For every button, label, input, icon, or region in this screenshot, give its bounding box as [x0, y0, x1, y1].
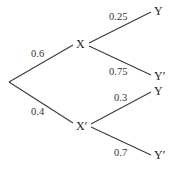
probability-tree-diagram: X X′ Y Y′ Y Y′ 0.6 0.4 0.25 0.75 0.3 0.7	[0, 0, 179, 169]
node-x-y-prime: Y′	[154, 69, 166, 83]
node-x-y: Y	[154, 4, 163, 18]
prob-x-y: 0.25	[109, 11, 127, 22]
node-x-prime: X′	[76, 119, 88, 133]
node-x-prime-y-prime: Y′	[154, 148, 166, 162]
prob-x-prime-y-prime: 0.7	[114, 147, 127, 158]
prob-root-x-prime: 0.4	[31, 106, 45, 117]
node-x: X	[76, 37, 85, 51]
node-x-prime-y: Y	[154, 84, 163, 98]
prob-x-prime-y: 0.3	[114, 92, 127, 103]
prob-root-x: 0.6	[31, 48, 44, 59]
prob-x-y-prime: 0.75	[109, 66, 127, 77]
